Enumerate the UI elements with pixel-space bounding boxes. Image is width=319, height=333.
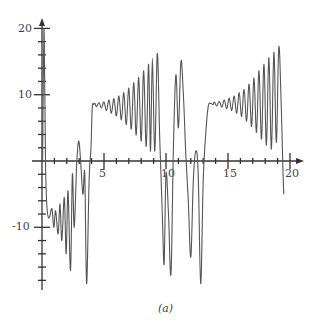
y-axis-arrow-icon (39, 18, 45, 26)
y-axis (34, 18, 50, 290)
x-tick-label-20: 20 (285, 167, 299, 180)
line-chart: 5 10 15 20 20 10 -10 (0, 0, 319, 333)
figure-caption: (a) (158, 302, 173, 315)
y-tick-label-neg10: -10 (12, 220, 30, 233)
x-axis-arrow-icon (296, 158, 304, 164)
data-curve (43, 29, 284, 284)
x-tick-label-15: 15 (223, 167, 237, 180)
x-tick-label-5: 5 (99, 167, 106, 180)
y-tick-label-10: 10 (18, 88, 32, 101)
y-tick-label-20: 20 (18, 22, 32, 35)
